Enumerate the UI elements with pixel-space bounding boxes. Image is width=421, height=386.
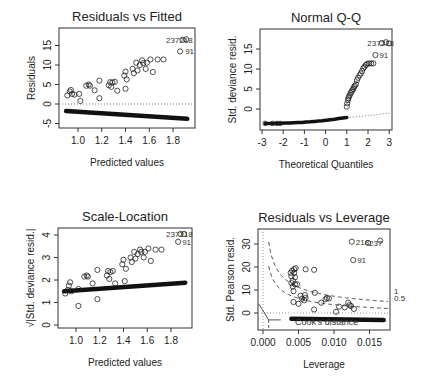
- x-tick-label: 0.005: [286, 337, 311, 348]
- plot-frame: [58, 228, 192, 328]
- y-tick-label: 10: [241, 284, 252, 296]
- smooth-line: [259, 304, 281, 320]
- data-point: [351, 258, 356, 263]
- y-tick-label: 5: [243, 86, 254, 92]
- y-tick-label: 30: [241, 238, 252, 250]
- residuals-vs-leverage-plot: Residuals vs Leverage0.0000.0050.0100.01…: [210, 193, 421, 386]
- data-point: [296, 301, 301, 306]
- data-point: [312, 267, 317, 272]
- data-point: [153, 247, 158, 252]
- x-tick-label: 0.000: [250, 337, 275, 348]
- data-layer: [63, 231, 187, 308]
- data-point: [303, 267, 308, 272]
- data-point: [148, 57, 153, 62]
- data-point: [155, 57, 160, 62]
- y-tick-label: 4: [41, 232, 52, 238]
- y-tick-label: -5: [42, 119, 53, 128]
- data-point: [351, 306, 356, 311]
- y-tick-label: 0: [243, 106, 254, 112]
- qq-reference-line: [347, 113, 392, 118]
- cooks-distance-legend: Cook's distance: [295, 317, 358, 327]
- x-tick-label: 1.6: [142, 135, 156, 146]
- data-point: [123, 266, 128, 271]
- point-label: 237218: [166, 36, 193, 45]
- data-point: [85, 274, 90, 279]
- x-tick-label: 1.0: [69, 335, 83, 346]
- data-point: [122, 279, 127, 284]
- data-point: [146, 246, 151, 251]
- y-tick-label: 0: [41, 322, 52, 328]
- data-point: [97, 96, 102, 101]
- y-tick-label: 15: [42, 40, 53, 52]
- data-point: [115, 88, 120, 93]
- x-axis-label: Theoretical Quantiles: [279, 159, 374, 170]
- data-point: [87, 83, 92, 88]
- data-point: [323, 297, 328, 302]
- x-tick-label: 1.8: [164, 335, 178, 346]
- data-point: [141, 255, 146, 260]
- x-tick-label: 0: [323, 137, 329, 148]
- y-axis-label: Residuals: [26, 56, 37, 100]
- x-tick-label: 1.2: [95, 135, 109, 146]
- x-tick-label: 1.2: [93, 335, 107, 346]
- y-axis-label: Std. Pearson resid.: [225, 237, 236, 322]
- data-point: [76, 303, 81, 308]
- y-tick-label: 10: [243, 63, 254, 75]
- data-point: [124, 77, 129, 82]
- data-point: [78, 98, 83, 103]
- x-tick-label: 1.6: [140, 335, 154, 346]
- data-point: [95, 297, 100, 302]
- dense-point-band: [66, 111, 187, 119]
- data-point: [373, 52, 378, 57]
- point-label: 218: [356, 238, 370, 247]
- data-point: [144, 60, 149, 65]
- data-point: [349, 239, 354, 244]
- y-axis-label: Std. deviance resid.: [227, 36, 238, 124]
- x-tick-label: 1.8: [166, 135, 180, 146]
- data-layer: [263, 40, 392, 126]
- x-axis-label: Predicted values: [88, 357, 162, 368]
- data-point: [148, 258, 153, 263]
- y-tick-label: 2: [41, 277, 52, 283]
- y-tick-label: 0: [42, 101, 53, 107]
- contour-label: 0.5: [394, 294, 406, 303]
- x-tick-label: 1.4: [119, 135, 133, 146]
- chart-title: Scale-Location: [82, 209, 168, 224]
- point-label: 91: [379, 51, 388, 60]
- data-point: [113, 281, 118, 286]
- x-tick-label: 1.4: [117, 335, 131, 346]
- x-tick-label: -1: [300, 137, 309, 148]
- cooks-distance-contour: [269, 266, 388, 308]
- data-point: [123, 86, 128, 91]
- data-point: [334, 309, 339, 314]
- data-point: [143, 66, 148, 71]
- residuals-vs-fitted-plot: Residuals vs Fitted1.01.21.41.61.8-50510…: [0, 0, 211, 193]
- point-label: 91: [185, 47, 194, 56]
- data-point: [312, 290, 317, 295]
- data-point: [291, 299, 296, 304]
- chart-title: Residuals vs Leverage: [258, 210, 390, 225]
- data-point: [312, 307, 317, 312]
- dense-point-band: [265, 117, 347, 123]
- x-tick-label: 0.015: [357, 337, 382, 348]
- y-tick-label: 5: [42, 81, 53, 87]
- data-point: [176, 239, 181, 244]
- x-tick-label: 2: [365, 137, 371, 148]
- point-label: 91: [357, 256, 366, 265]
- x-tick-label: -2: [279, 137, 288, 148]
- data-point: [97, 78, 102, 83]
- y-axis-label: √|Std. deviance resid.|: [25, 229, 36, 328]
- cooks-distance-contour: [269, 242, 388, 302]
- y-tick-label: 3: [41, 254, 52, 260]
- chart-title: Residuals vs Fitted: [72, 9, 182, 24]
- data-layer: [59, 37, 195, 119]
- data-point: [95, 267, 100, 272]
- y-tick-label: 0: [241, 310, 252, 316]
- y-tick-label: 15: [243, 43, 254, 55]
- x-tick-label: 0.010: [321, 337, 346, 348]
- x-axis-label: Predicted values: [90, 157, 164, 168]
- x-tick-label: -3: [258, 137, 267, 148]
- normal-qq-plot: Normal Q-Q-3-2-10123051015Theoretical Qu…: [210, 0, 421, 193]
- point-label: 237: [369, 239, 383, 248]
- x-axis-label: Leverage: [303, 359, 345, 370]
